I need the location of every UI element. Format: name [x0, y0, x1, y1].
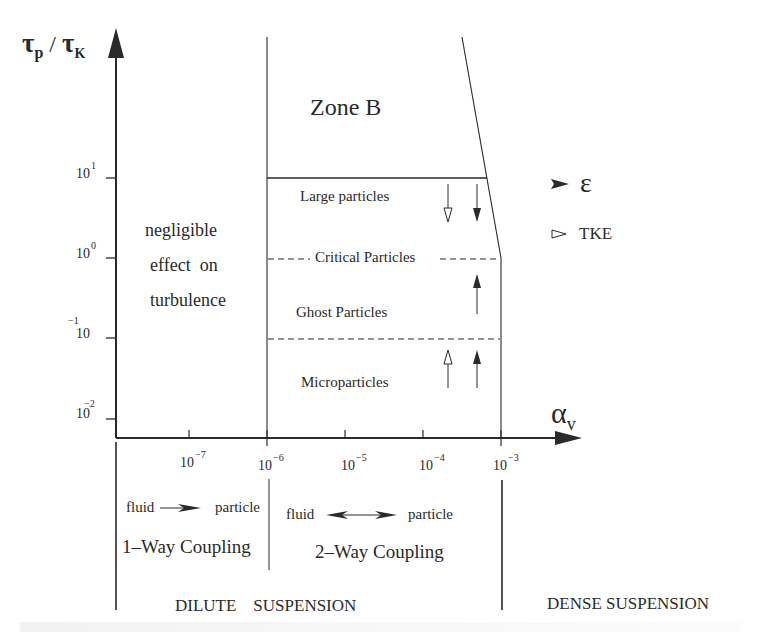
two-way-coupling-label: 2–Way Coupling [315, 541, 444, 563]
x-tick-1e-7: 10−7 [180, 455, 206, 471]
y-tick-1e1: 101 [76, 166, 96, 182]
one-way-fluid-label: fluid [126, 499, 154, 516]
alpha-symbol: α [551, 396, 567, 429]
two-way-fluid-label: fluid [286, 506, 314, 523]
two-way-particle-label: particle [408, 506, 453, 523]
tick-exp: −5 [356, 452, 367, 463]
x-tick-1e-3: 10−3 [493, 458, 519, 474]
tau-subscript-p: p [34, 44, 43, 61]
y-axis-label: τp / τK [22, 28, 85, 59]
one-way-coupling-label: 1–Way Coupling [122, 536, 251, 558]
x-axis-label: αv [551, 396, 576, 430]
y-axis [106, 28, 124, 438]
dense-suspension-label: DENSE SUSPENSION [547, 594, 709, 614]
tke-arrow-down-large [444, 184, 452, 222]
dilute-suspension-label: DILUTE SUSPENSION [175, 596, 356, 616]
tick-base: 10 [76, 326, 90, 341]
tke-legend-marker [552, 230, 566, 238]
microparticles-label: Microparticles [301, 374, 388, 391]
critical-particles-label: Critical Particles [315, 249, 415, 266]
tau-symbol-2: τ [62, 28, 74, 58]
alpha-subscript-v: v [567, 414, 576, 434]
one-way-particle-label: particle [215, 499, 260, 516]
one-way-arrow [160, 504, 201, 512]
x-axis [116, 430, 582, 446]
tick-exp: −1 [68, 315, 79, 326]
tick-base: 10 [76, 166, 90, 181]
tick-exp: 1 [91, 160, 96, 171]
tick-base: 10 [341, 458, 355, 473]
y-tick-1e-2: 10−2 [76, 406, 95, 422]
x-tick-1e-4: 10−4 [419, 458, 445, 474]
tick-base: 10 [258, 458, 272, 473]
ratio-slash: / [43, 31, 62, 57]
ghost-particles-label: Ghost Particles [296, 304, 387, 321]
y-tick-1e-1: 10−1 [76, 326, 79, 342]
faded-caption-strip [20, 622, 740, 632]
tau-subscript-k: K [74, 46, 85, 61]
tick-exp: −6 [273, 452, 284, 463]
epsilon-arrow-up-ghost [473, 274, 481, 314]
x-tick-1e-5: 10−5 [341, 458, 367, 474]
large-particles-label: Large particles [300, 188, 389, 205]
zone-b-label: Zone B [310, 94, 381, 121]
tke-legend-label: TKE [579, 224, 612, 244]
negligible-label-3: turbulence [150, 290, 226, 311]
tick-base: 10 [180, 455, 194, 470]
x-tick-1e-6: 10−6 [258, 458, 284, 474]
tick-exp: −3 [508, 452, 519, 463]
tick-base: 10 [76, 246, 90, 261]
epsilon-legend-label: ε [580, 167, 592, 199]
epsilon-arrow-up-micro [473, 350, 481, 388]
two-way-arrow [326, 511, 397, 519]
tick-exp: 0 [91, 240, 96, 251]
y-tick-1e0: 100 [76, 246, 96, 262]
tke-arrow-up-micro [444, 350, 452, 388]
tick-base: 10 [493, 458, 507, 473]
tick-exp: −2 [84, 398, 95, 409]
negligible-label-2: effect on [150, 255, 218, 276]
epsilon-arrow-down-large [473, 184, 481, 222]
tick-exp: −4 [434, 452, 445, 463]
epsilon-legend-marker [551, 179, 569, 189]
negligible-label-1: negligible [145, 220, 217, 241]
tick-base: 10 [419, 458, 433, 473]
tau-symbol: τ [22, 28, 34, 58]
tick-exp: −7 [195, 449, 206, 460]
